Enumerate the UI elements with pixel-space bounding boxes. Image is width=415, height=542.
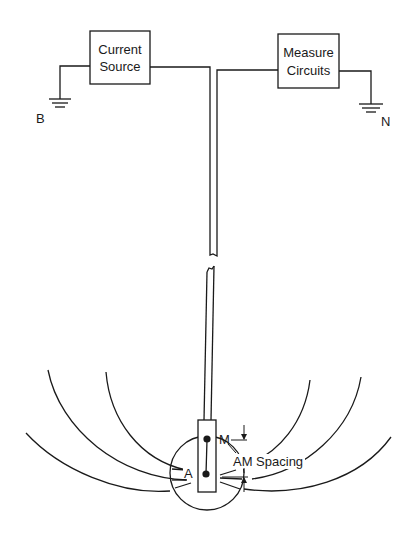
sonde — [198, 420, 216, 492]
electrode-a-label: A — [184, 466, 193, 481]
electrode-m — [203, 435, 210, 442]
ground-b-label: B — [36, 111, 45, 126]
measure-circuits-label-line1: Measure — [283, 45, 334, 60]
current-source-box — [90, 31, 150, 84]
measure-circuits-block: Measure Circuits — [278, 34, 339, 88]
measure-circuits-label-line2: Circuits — [287, 63, 331, 78]
normal-log-diagram: Current Source Measure Circuits B N — [0, 0, 415, 542]
current-source-block: Current Source — [90, 31, 150, 84]
cable-left-conductor-lower — [204, 272, 207, 420]
cable-left-conductor-upper — [150, 67, 210, 250]
ground-n: N — [339, 71, 390, 129]
field-line-segment — [220, 470, 236, 475]
field-lines-left — [26, 370, 191, 491]
ground-n-wire — [339, 71, 371, 104]
field-line-segment — [220, 482, 240, 489]
am-spacing-label: AM Spacing — [233, 454, 303, 469]
cable-right-conductor-lower — [211, 266, 214, 420]
current-source-label-line2: Source — [99, 59, 140, 74]
field-line-segment — [175, 483, 191, 488]
electrode-a — [202, 470, 209, 477]
field-line — [26, 433, 170, 491]
field-lines-right — [220, 377, 391, 491]
field-line-segment — [220, 478, 242, 479]
ground-n-label: N — [381, 114, 390, 129]
cable-right-conductor-upper — [217, 70, 278, 250]
arrow-up-icon — [241, 477, 247, 483]
ground-b-wire — [60, 66, 90, 99]
measure-circuits-box — [278, 34, 339, 88]
cable-break-upper — [210, 250, 217, 256]
arrow-down-icon — [241, 434, 247, 440]
current-source-label-line1: Current — [98, 42, 142, 57]
cable-break-lower — [207, 266, 214, 272]
ground-b: B — [36, 66, 90, 126]
